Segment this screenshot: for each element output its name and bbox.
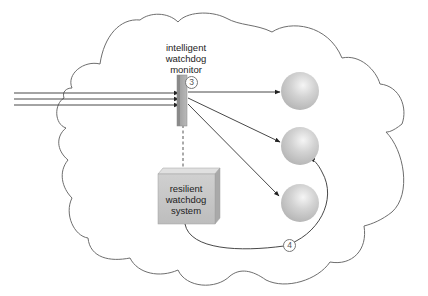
system-box-label: resilient watchdog system <box>158 183 214 216</box>
system-box-label-line-3: system <box>158 205 214 216</box>
system-box-label-line-2: watchdog <box>158 194 214 205</box>
node-3-sphere <box>281 184 319 222</box>
monitor-label-line-1: intelligent <box>150 42 222 53</box>
step-marker-4: 4 <box>283 239 296 252</box>
incoming-arrows <box>14 93 179 105</box>
node-2-sphere <box>281 127 319 165</box>
monitor-label: intelligent watchdog monitor <box>150 42 222 75</box>
node-1-sphere <box>281 72 319 110</box>
system-box-label-line-1: resilient <box>158 183 214 194</box>
step-marker-3: 3 <box>185 76 198 89</box>
monitor-label-line-3: monitor <box>150 64 222 75</box>
cloud-outline <box>57 13 404 285</box>
monitor-label-line-2: watchdog <box>150 53 222 64</box>
